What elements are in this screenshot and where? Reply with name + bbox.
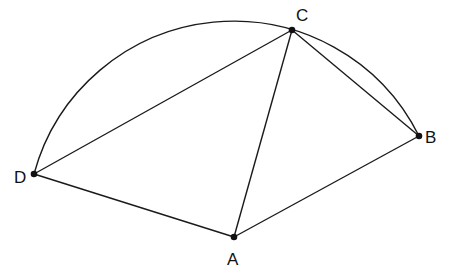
label-d: D <box>14 168 26 187</box>
point-a <box>231 234 238 241</box>
point-b <box>416 133 423 140</box>
label-b: B <box>425 128 436 147</box>
label-c: C <box>296 6 308 25</box>
segment-dc <box>34 30 292 174</box>
segment-da <box>34 174 234 237</box>
segment-ca <box>234 30 292 237</box>
arc-dcb <box>34 21 419 174</box>
segment-cb <box>292 30 419 136</box>
point-d <box>31 171 38 178</box>
geometry-diagram: A B C D <box>0 0 451 275</box>
label-a: A <box>227 250 239 269</box>
point-c <box>289 27 296 34</box>
segment-ab <box>234 136 419 237</box>
